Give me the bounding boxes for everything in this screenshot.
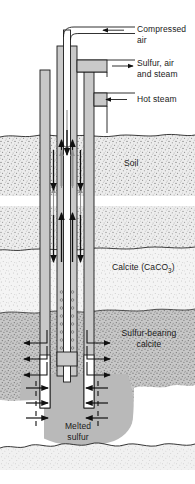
label-sulfur-bearing-calcite: Sulfur-bearing calcite	[108, 328, 190, 349]
label-calcite: Calcite (CaCO3)	[112, 262, 175, 276]
label-sulfur-air-and-steam: Sulfur, air and steam	[137, 58, 178, 79]
geology-layers	[0, 134, 195, 470]
label-soil: Soil	[124, 158, 139, 169]
air-pipe	[64, 30, 71, 382]
label-melted-sulfur: Melted sulfur	[48, 421, 108, 442]
label-calcite-suffix: )	[172, 262, 175, 272]
leader-arrows	[103, 30, 133, 99]
diagram-canvas: Compressed air Sulfur, air and steam Hot…	[0, 0, 195, 484]
soil-layer	[0, 134, 195, 196]
label-compressed-air: Compressed air	[137, 24, 186, 45]
label-hot-steam: Hot steam	[137, 94, 177, 105]
bedrock-layer	[0, 443, 195, 470]
label-calcite-prefix: Calcite (CaCO	[112, 262, 168, 272]
calcite-layer	[0, 206, 195, 312]
